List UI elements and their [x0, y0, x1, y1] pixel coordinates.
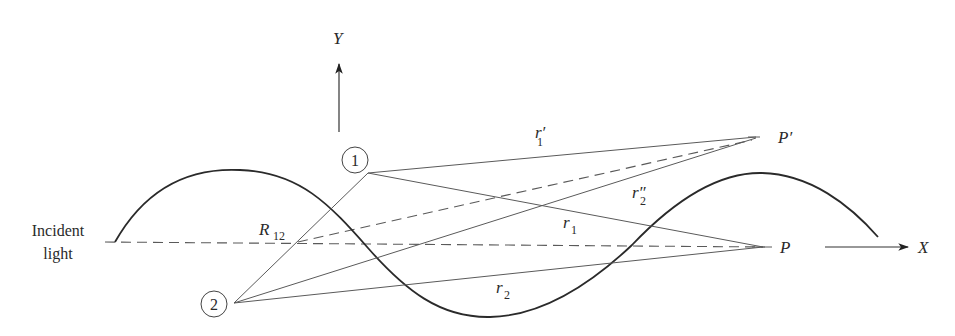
label-r2-double-prime: r″ 2 [632, 183, 647, 208]
y-axis: Y [333, 29, 344, 132]
segment-R12 [234, 173, 368, 303]
incident-label-line2: light [43, 245, 73, 263]
label-r2-main: r [496, 278, 503, 297]
label-r2: r 2 [496, 278, 510, 302]
label-R12: R 12 [258, 220, 285, 243]
point-p-label: P [779, 238, 790, 257]
label-r1: r 1 [563, 213, 577, 237]
x-axis: X [825, 238, 929, 257]
ray-r2-double-prime [234, 138, 756, 303]
scatterer-2: 2 [201, 291, 227, 317]
label-r2-sub: 2 [504, 288, 510, 302]
x-axis-label: X [917, 238, 929, 257]
ray-r1-prime [368, 137, 756, 173]
label-r1-prime-sub: 1 [537, 135, 543, 149]
incident-dashed-line [105, 242, 765, 247]
y-axis-label: Y [333, 29, 344, 48]
label-r1-sub: 1 [571, 223, 577, 237]
ray-r1 [368, 173, 763, 247]
scattering-diagram: Y X Incident light 1 2 P′ P [0, 0, 955, 336]
label-r1-prime: r′ 1 [535, 123, 546, 149]
label-R12-main: R [258, 220, 270, 239]
incident-light-label: Incident light [32, 222, 85, 263]
scatterer-1: 1 [342, 147, 368, 173]
scatterer-2-label: 2 [210, 296, 218, 313]
point-p-prime-label: P′ [777, 128, 792, 147]
incident-label-line1: Incident [32, 222, 85, 239]
label-r1-main: r [563, 213, 570, 232]
label-R12-sub: 12 [273, 229, 285, 243]
label-r2-double-prime-sub: 2 [640, 194, 646, 208]
scatterer-1-label: 1 [351, 152, 359, 169]
